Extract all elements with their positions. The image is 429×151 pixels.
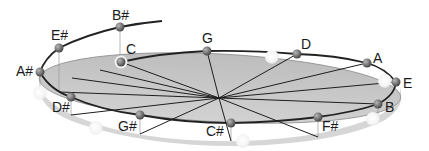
node-g: [203, 47, 212, 56]
label-asharp: A#: [16, 63, 33, 79]
ghost-node: [378, 74, 392, 88]
label-esharp: E#: [51, 27, 68, 43]
label-gsharp: G#: [118, 118, 137, 134]
node-b: [374, 100, 383, 109]
label-c: C: [126, 41, 136, 57]
ghost-node: [265, 50, 279, 64]
node-bsharp: [116, 23, 125, 32]
node-esharp: [55, 44, 64, 53]
ghost-node: [33, 86, 47, 100]
label-g: G: [202, 30, 213, 46]
label-d: D: [301, 36, 311, 52]
ghost-node: [89, 121, 103, 135]
node-csharp: [227, 119, 236, 128]
label-csharp: C#: [206, 123, 224, 139]
node-e: [392, 78, 401, 87]
label-dsharp: D#: [52, 99, 70, 115]
node-asharp: [36, 68, 45, 77]
node-a: [363, 59, 372, 68]
spiral-of-fifths-diagram: B# E# A# C G D A E B F# C# G# D#: [0, 0, 429, 151]
node-gsharp: [136, 111, 145, 120]
label-a: A: [373, 50, 383, 66]
label-fsharp: F#: [322, 118, 339, 134]
label-b: B: [385, 99, 394, 115]
node-c: [117, 58, 126, 67]
label-bsharp: B#: [112, 7, 129, 23]
ghost-node: [366, 112, 380, 126]
label-e: E: [403, 75, 412, 91]
ghost-node: [236, 134, 250, 148]
disk-top: [37, 45, 402, 132]
